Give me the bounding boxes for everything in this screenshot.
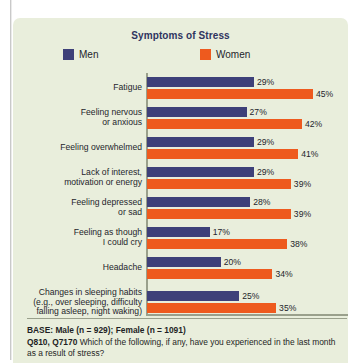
bar-segment [147,149,298,159]
bar-pair: 20%34% [147,253,348,283]
bar-men: 29% [147,167,348,177]
bar-pair: 29%45% [147,73,348,103]
bar-value-label: 39% [291,209,311,219]
bar-value-label: 39% [291,179,311,189]
bar-pair: 28%39% [147,193,348,223]
bar-value-label: 28% [250,197,270,207]
bar-value-label: 25% [239,291,259,301]
chart-panel: Symptoms of Stress Men Women Fatigue29%4… [13,18,348,363]
bar-pair: 29%39% [147,163,348,193]
category-label: Feeling overwhelmed [16,143,142,153]
bar-value-label: 20% [221,257,241,267]
bar-segment [147,257,221,267]
bar-segment [147,197,250,207]
bar-row: Changes in sleeping habits(e.g., over sl… [13,283,348,321]
bar-value-label: 29% [254,77,274,87]
bar-value-label: 38% [287,239,307,249]
bar-women: 34% [147,269,348,279]
bar-segment [147,107,247,117]
bar-value-label: 35% [276,303,296,313]
bar-value-label: 34% [272,269,292,279]
footnote-base-line: BASE: Male (n = 929); Female (n = 1091) [27,325,345,336]
bar-segment [147,89,313,99]
bar-segment [147,137,254,147]
bar-row: Lack of interest,motivation or energy29%… [13,163,348,193]
footnote-question-line: Q810, Q7170 Which of the following, if a… [27,337,345,359]
bar-value-label: 29% [254,167,274,177]
bar-pair: 25%35% [147,283,348,321]
bar-pair: 29%41% [147,133,348,163]
bar-row: Feeling overwhelmed29%41% [13,133,348,163]
bar-men: 29% [147,77,348,87]
bar-segment [147,239,287,249]
category-label: Lack of interest,motivation or energy [16,168,142,187]
bar-segment [147,209,291,219]
bar-women: 38% [147,239,348,249]
bar-men: 17% [147,227,348,237]
legend-swatch-women-icon [200,49,211,60]
bar-segment [147,227,210,237]
bar-segment [147,167,254,177]
category-label: Changes in sleeping habits(e.g., over sl… [16,288,142,317]
bar-segment [147,77,254,87]
legend-item-women: Women [200,49,250,60]
bar-men: 20% [147,257,348,267]
category-label: Fatigue [16,83,142,93]
category-label: Feeling depressedor sad [16,198,142,217]
bar-women: 39% [147,209,348,219]
bar-men: 29% [147,137,348,147]
legend-swatch-men-icon [63,49,74,60]
bar-men: 27% [147,107,348,117]
footnote-question-code: Q810, Q7170 [27,337,77,347]
bar-women: 41% [147,149,348,159]
bar-row: Feeling as thoughI could cry17%38% [13,223,348,253]
bar-value-label: 27% [247,107,267,117]
bar-men: 28% [147,197,348,207]
bar-segment [147,291,239,301]
category-label: Headache [16,263,142,273]
category-label: Feeling as thoughI could cry [16,228,142,247]
bar-value-label: 29% [254,137,274,147]
bar-women: 42% [147,119,348,129]
footnote: BASE: Male (n = 929); Female (n = 1091) … [27,325,345,359]
bar-women: 45% [147,89,348,99]
footnote-separator [27,318,347,319]
bar-women: 35% [147,303,348,313]
bar-row: Feeling nervousor anxious27%42% [13,103,348,133]
bar-segment [147,119,302,129]
bar-segment [147,179,291,189]
category-label: Feeling nervousor anxious [16,108,142,127]
bar-segment [147,303,276,313]
plot-area: Fatigue29%45%Feeling nervousor anxious27… [13,73,348,316]
bar-row: Headache20%34% [13,253,348,283]
chart-legend: Men Women [63,49,313,65]
legend-item-men: Men [63,49,98,60]
bar-rows-container: Fatigue29%45%Feeling nervousor anxious27… [13,73,348,321]
bar-row: Feeling depressedor sad28%39% [13,193,348,223]
legend-label-women: Women [216,49,250,60]
bar-segment [147,269,272,279]
legend-label-men: Men [79,49,98,60]
chart-title: Symptoms of Stress [13,30,348,41]
bar-value-label: 45% [313,89,333,99]
bar-row: Fatigue29%45% [13,73,348,103]
page-margin-rule-shadow [11,0,12,360]
bar-value-label: 17% [210,227,230,237]
bar-women: 39% [147,179,348,189]
bar-pair: 17%38% [147,223,348,253]
bar-men: 25% [147,291,348,301]
bar-value-label: 42% [302,119,322,129]
bar-value-label: 41% [298,149,318,159]
bar-pair: 27%42% [147,103,348,133]
